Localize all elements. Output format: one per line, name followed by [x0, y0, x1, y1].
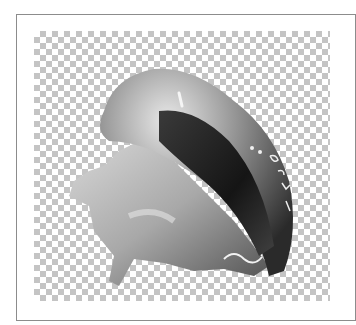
- conch-shell-image: [34, 31, 330, 301]
